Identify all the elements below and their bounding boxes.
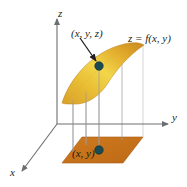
surface-z-equals-f: [62, 43, 144, 104]
x-axis: [22, 124, 57, 171]
label-surface-equation: z = f(x, y): [128, 33, 171, 44]
figure-3d-surface-plot: z y x (x, y, z) z = f(x, y) (x, y): [0, 0, 187, 187]
axis-label-z: z: [58, 8, 62, 19]
surface-point-marker: [95, 62, 103, 70]
axis-label-y: y: [172, 112, 177, 123]
label-point-on-surface: (x, y, z): [71, 28, 103, 39]
label-point-in-plane: (x, y): [72, 148, 95, 159]
axis-label-x: x: [10, 167, 15, 178]
plane-point-marker: [95, 146, 103, 154]
callout-arrow-icon: [80, 38, 96, 61]
